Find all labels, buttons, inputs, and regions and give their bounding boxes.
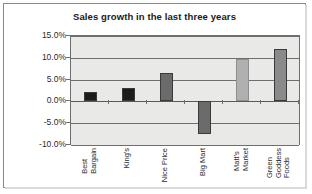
y-axis-tick-mark: [66, 57, 70, 58]
gridline-10: [71, 58, 299, 59]
y-axis-tick-label: -5.0%: [22, 117, 66, 127]
gridline-15: [71, 36, 299, 37]
bar-matt-s-market: [236, 59, 249, 101]
x-axis-category-text: Nice Price: [161, 148, 170, 182]
x-axis-category-label: GreenGoddessFoods: [256, 148, 302, 192]
bar-king-s: [122, 88, 135, 101]
x-axis-tick-mark: [146, 100, 147, 104]
x-axis-tick-mark: [108, 100, 109, 104]
y-axis-tick-mark: [66, 144, 70, 145]
bar-big-mart: [198, 101, 211, 134]
plot-area: [70, 35, 300, 145]
x-axis-category-line: King's: [123, 148, 132, 168]
x-axis-labels: BestBargainKing'sNice PriceBig MartMatt'…: [70, 148, 298, 194]
x-axis-category-text: GreenGoddessFoods: [266, 148, 292, 178]
x-axis-category-text: Big Mart: [199, 148, 208, 176]
gridline-5: [71, 80, 299, 81]
x-axis-category-text: BestBargain: [81, 148, 98, 174]
bar-best-bargain: [84, 92, 97, 102]
gridline--10: [71, 145, 299, 146]
x-axis-tick-mark: [260, 100, 261, 104]
y-axis-tick-label: 10.0%: [22, 52, 66, 62]
y-axis-labels: 15.0%10.0%5.0%0.0%-5.0%-10.0%: [22, 35, 66, 144]
x-axis-category-line: Bargain: [89, 148, 98, 174]
x-axis-tick-mark: [222, 100, 223, 104]
chart-title: Sales growth in the last three years: [4, 11, 305, 22]
x-axis-tick-mark: [298, 100, 299, 104]
x-axis-category-text: Matt'sMarket: [233, 148, 250, 171]
bar-nice-price: [160, 73, 173, 101]
y-axis-tick-label: 0.0%: [22, 95, 66, 105]
y-axis-tick-mark: [66, 122, 70, 123]
x-axis-category-text: King's: [123, 148, 132, 168]
y-axis-tick-mark: [66, 35, 70, 36]
y-axis-tick-label: 5.0%: [22, 74, 66, 84]
x-axis-category-line: Nice Price: [161, 148, 170, 182]
gridline-0: [71, 101, 299, 102]
x-axis-category-line: Big Mart: [199, 148, 208, 176]
chart-frame: Sales growth in the last three years 15.…: [3, 3, 306, 188]
y-axis-tick-label: -10.0%: [22, 139, 66, 149]
y-axis-tick-label: 15.0%: [22, 30, 66, 40]
x-axis-category-line: Foods: [283, 148, 292, 178]
y-axis-tick-mark: [66, 79, 70, 80]
x-axis-tick-mark: [70, 100, 71, 104]
x-axis-category-line: Market: [241, 148, 250, 171]
gridline--5: [71, 123, 299, 124]
bar-green-goddess-foods: [274, 49, 287, 101]
x-axis-tick-mark: [184, 100, 185, 104]
